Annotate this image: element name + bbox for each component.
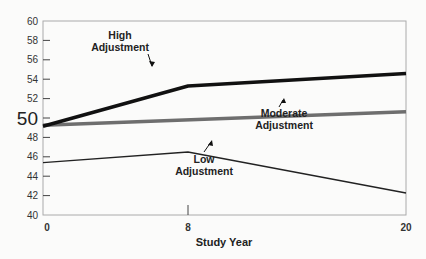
line-chart: 60 58 56 54 52 50 48 46 44 42 40 0 8 20 … — [0, 0, 426, 259]
svg-text:Moderate: Moderate — [261, 107, 308, 119]
y-axis: 60 58 56 54 52 50 48 46 44 42 40 — [17, 16, 50, 221]
svg-text:Low: Low — [194, 153, 216, 165]
x-axis-label: Study Year — [196, 236, 253, 248]
x-tick-label: 20 — [400, 222, 412, 233]
y-tick-label: 42 — [27, 190, 39, 201]
annotation-moderate: Moderate Adjustment — [255, 98, 313, 131]
svg-text:High: High — [108, 29, 131, 41]
y-tick-label: 60 — [27, 16, 39, 27]
y-tick-label: 44 — [27, 171, 39, 182]
x-axis: 0 8 20 Study Year — [44, 205, 412, 248]
y-tick-label-highlighted: 50 — [17, 108, 38, 129]
y-tick-label: 46 — [27, 151, 39, 162]
y-tick-label: 40 — [27, 210, 39, 221]
y-tick-label: 58 — [27, 35, 39, 46]
x-tick-label: 0 — [44, 222, 50, 233]
arrowhead-icon — [281, 98, 286, 103]
series-moderate-line — [43, 112, 406, 126]
y-tick-label: 48 — [27, 132, 39, 143]
svg-text:Adjustment: Adjustment — [255, 119, 313, 131]
arrowhead-icon — [149, 61, 155, 67]
x-tick-label: 8 — [185, 222, 191, 233]
y-tick-label: 54 — [27, 74, 39, 85]
y-tick-label: 56 — [27, 54, 39, 65]
svg-text:Adjustment: Adjustment — [175, 165, 233, 177]
arrowhead-icon — [208, 140, 213, 146]
svg-text:Adjustment: Adjustment — [91, 41, 149, 53]
y-tick-label: 52 — [27, 93, 39, 104]
annotation-high: High Adjustment — [91, 29, 155, 67]
